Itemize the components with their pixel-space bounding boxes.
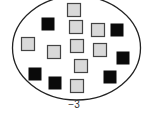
negative-chip bbox=[29, 68, 42, 81]
negative-chip bbox=[104, 71, 117, 84]
positive-chip bbox=[94, 44, 107, 57]
positive-chip bbox=[68, 4, 81, 17]
positive-chip bbox=[75, 60, 88, 73]
negative-chip bbox=[117, 52, 130, 65]
chips-group bbox=[22, 4, 130, 93]
negative-chip bbox=[42, 18, 55, 31]
negative-chip bbox=[49, 77, 62, 90]
positive-chip bbox=[48, 46, 61, 59]
negative-chip bbox=[111, 24, 124, 37]
value-label: −3 bbox=[0, 99, 148, 110]
positive-chip bbox=[71, 80, 84, 93]
positive-chip bbox=[71, 40, 84, 53]
positive-chip bbox=[22, 38, 35, 51]
positive-chip bbox=[92, 24, 105, 37]
positive-chip bbox=[70, 21, 83, 34]
